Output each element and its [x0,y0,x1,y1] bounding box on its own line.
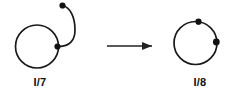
transform-arrow-head-icon [142,42,152,50]
left-circle-outline [16,25,59,68]
right-top-dot [195,19,201,25]
diagram-canvas: I/7 I/8 [0,0,237,106]
left-junction-dot [54,43,60,49]
left-tail-curve [58,6,76,47]
knot-move-diagram: I/7 I/8 [0,0,237,106]
right-side-dot [213,39,220,46]
left-figure-label: I/7 [34,76,47,88]
right-circle-outline [174,22,217,65]
right-figure-group: I/8 [174,19,220,88]
right-figure-label: I/8 [194,76,207,88]
left-free-end-dot [59,2,65,8]
arrow-group [107,42,152,50]
left-figure-group: I/7 [16,2,76,88]
